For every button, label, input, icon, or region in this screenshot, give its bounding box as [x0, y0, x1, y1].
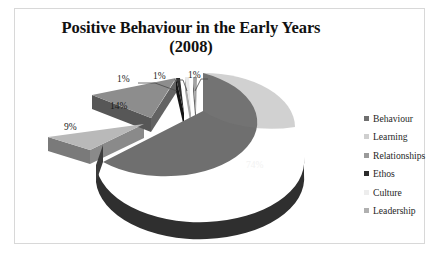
legend-item-culture[interactable]: Culture [364, 183, 444, 202]
legend-swatch-icon [364, 134, 369, 139]
legend-swatch-icon [364, 171, 369, 176]
data-label-learning: 9% [64, 122, 77, 133]
legend-label: Ethos [373, 168, 395, 179]
legend-swatch-icon [364, 153, 369, 158]
chart-title-line-1: Positive Behaviour in the Early Years [62, 18, 321, 37]
legend-item-relationships[interactable]: Relationships [364, 146, 444, 165]
legend-item-learning[interactable]: Learning [364, 128, 444, 147]
legend-swatch-icon [364, 116, 369, 121]
data-label-ethos: 1% [117, 74, 130, 85]
pie-chart-plot-area: 74% 14% 9% 1% 1% 1% [43, 61, 333, 236]
data-label-leadership: 1% [188, 70, 201, 81]
legend-swatch-icon [364, 208, 369, 213]
legend-swatch-icon [364, 190, 369, 195]
data-label-culture: 1% [153, 71, 166, 82]
chart-title: Positive Behaviour in the Early Years (2… [35, 18, 347, 56]
legend-label: Relationships [373, 150, 425, 161]
legend-item-ethos[interactable]: Ethos [364, 165, 444, 184]
chart-legend: Behaviour Learning Relationships Ethos C… [364, 109, 444, 220]
data-label-behaviour: 74% [246, 160, 263, 171]
data-label-relationships: 14% [110, 101, 127, 112]
legend-label: Culture [373, 187, 402, 198]
chart-title-line-2: (2008) [35, 37, 347, 56]
legend-label: Leadership [373, 205, 416, 216]
legend-item-behaviour[interactable]: Behaviour [364, 109, 444, 128]
legend-label: Behaviour [373, 113, 413, 124]
legend-label: Learning [373, 131, 408, 142]
chart-frame: Positive Behaviour in the Early Years (2… [14, 8, 425, 244]
pie-chart-svg [43, 61, 333, 236]
legend-item-leadership[interactable]: Leadership [364, 202, 444, 221]
